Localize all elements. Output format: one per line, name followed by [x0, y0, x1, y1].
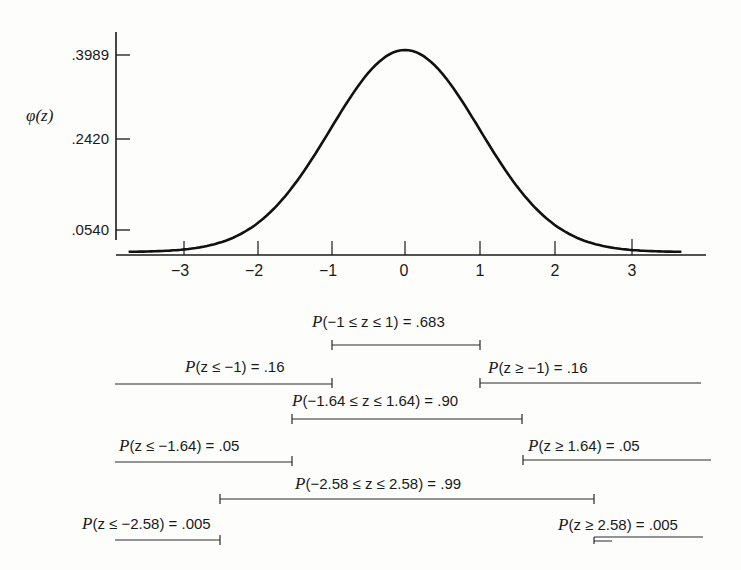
x-tick-label: 1	[476, 262, 485, 279]
label-right-005: P(z ≥ 2.58) = .005	[558, 515, 678, 535]
x-tick-label: −2	[245, 262, 263, 279]
label-p99: P(−2.58 ≤ z ≤ 2.58) = .99	[295, 474, 461, 494]
interval-right-005	[594, 537, 703, 544]
interval-left-005	[115, 535, 220, 545]
y-tick-label: .0540	[71, 221, 109, 238]
interval-right-05	[523, 455, 711, 465]
x-ticks	[184, 239, 632, 255]
y-tick-label: .2420	[71, 130, 109, 147]
x-tick-label: 0	[400, 262, 409, 279]
x-tick-label: 3	[628, 262, 637, 279]
x-tick-label: 2	[551, 262, 560, 279]
interval-683	[332, 340, 480, 350]
y-tick-label: .3989	[71, 46, 109, 63]
x-tick-label: −3	[171, 262, 189, 279]
x-tick-label: −1	[319, 262, 337, 279]
interval-99	[220, 494, 594, 504]
interval-90	[292, 414, 522, 424]
interval-right-16	[480, 378, 701, 388]
label-p90: P(−1.64 ≤ z ≤ 1.64) = .90	[292, 391, 458, 411]
label-right-16: P(z ≥ −1) = .16	[488, 358, 588, 378]
y-axis-label: φ(z)	[26, 106, 54, 125]
label-right-05: P(z ≥ 1.64) = .05	[528, 436, 640, 456]
interval-left-16	[115, 378, 332, 388]
label-left-16: P(z ≤ −1) = .16	[185, 357, 285, 377]
label-p683: P(−1 ≤ z ≤ 1) = .683	[312, 312, 445, 332]
label-left-005: P(z ≤ −2.58) = .005	[82, 514, 211, 534]
normal-density-curve	[129, 50, 682, 252]
label-left-05: P(z ≤ −1.64) = .05	[119, 436, 239, 456]
interval-left-05	[115, 456, 292, 466]
